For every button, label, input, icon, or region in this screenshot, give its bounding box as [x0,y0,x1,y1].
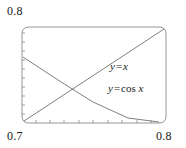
annotation-y-equals-cos-x: y=cos x [108,82,143,94]
annotation-operator: = [113,82,121,94]
chart-figure: 0.8 0.7 0.8 y=x y=cos x [0,0,186,148]
y-axis-min-label: 0.7 [7,129,23,144]
annotation-function-name: cos [121,82,136,94]
curve-y-equals-x [24,29,164,121]
x-axis-max-label: 0.8 [156,129,172,144]
y-axis-max-label: 0.8 [7,4,23,19]
annotation-rhs: x [123,60,128,72]
annotation-argument: x [139,82,144,94]
annotation-y-equals-x: y=x [110,60,128,72]
plot-canvas [0,0,186,148]
annotation-operator: = [115,60,123,72]
